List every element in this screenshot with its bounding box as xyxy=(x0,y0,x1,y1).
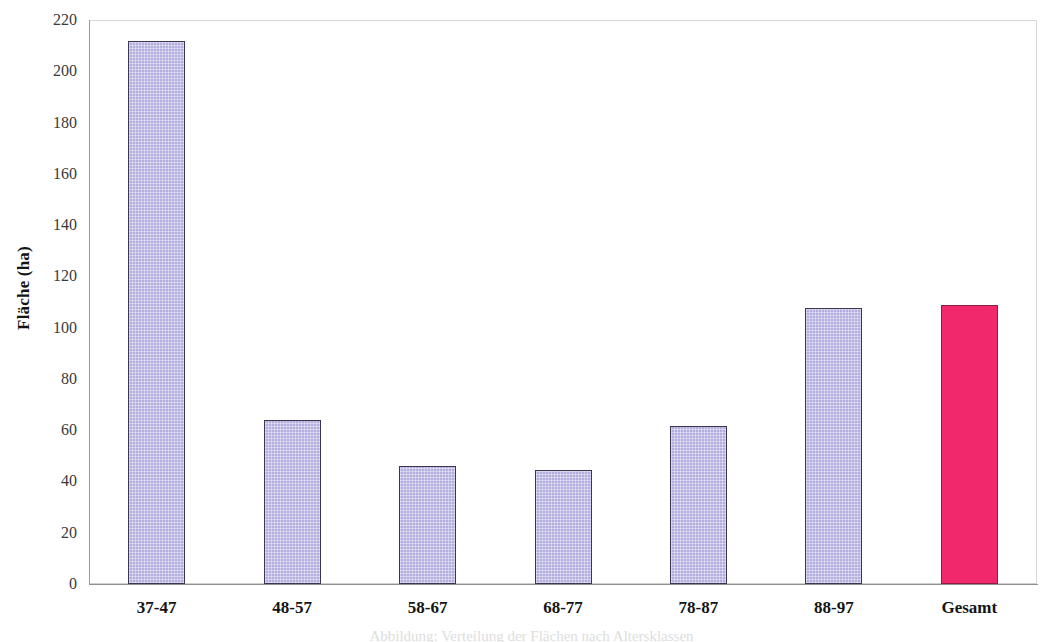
bar-88-97 xyxy=(805,308,862,584)
bar-78-87 xyxy=(670,426,727,584)
bar-37-47 xyxy=(128,41,185,584)
bar-gesamt xyxy=(941,305,998,584)
x-tick-label: 48-57 xyxy=(272,599,312,616)
x-axis-tick-labels: 37-4748-5758-6768-7778-8788-97Gesamt xyxy=(0,592,1063,626)
x-tick-label: 58-67 xyxy=(408,599,448,616)
bar-68-77 xyxy=(535,470,592,584)
x-tick-label: 78-87 xyxy=(679,599,719,616)
x-tick-label: 37-47 xyxy=(137,599,177,616)
bar-48-57 xyxy=(264,420,321,584)
x-tick-label: 68-77 xyxy=(543,599,583,616)
bar-58-67 xyxy=(399,466,456,584)
bar-chart: Fläche (ha) 0204060801001201401601802002… xyxy=(0,0,1063,642)
cropped-caption: Abbildung: Verteilung der Flächen nach A… xyxy=(0,630,1063,642)
x-tick-label: Gesamt xyxy=(941,599,997,616)
bars-layer xyxy=(0,0,1063,642)
cropped-caption-text: Abbildung: Verteilung der Flächen nach A… xyxy=(0,630,1063,642)
x-tick-label: 88-97 xyxy=(814,599,854,616)
